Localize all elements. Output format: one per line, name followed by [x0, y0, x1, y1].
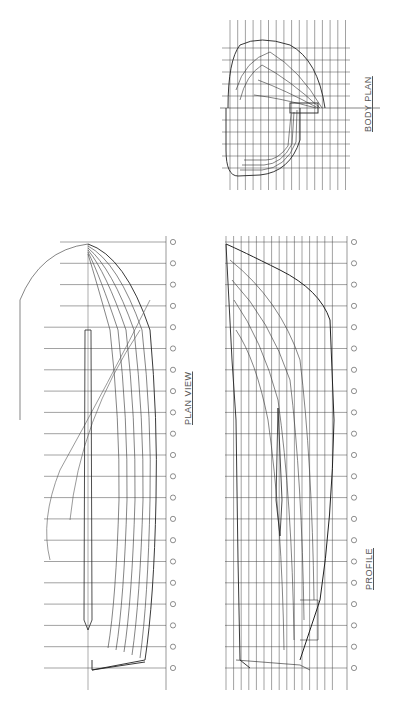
profile-title: PROFILE: [364, 548, 374, 590]
station-marker-profile: [351, 282, 356, 287]
station-marker-profile: [351, 389, 356, 394]
station-marker-profile: [351, 559, 356, 564]
station-marker-profile: [351, 665, 356, 670]
body-plan-view: [220, 20, 380, 190]
station-marker-profile: [351, 623, 356, 628]
plan-view: [20, 236, 176, 690]
station-marker-plan: [170, 452, 175, 457]
station-marker-plan: [170, 410, 175, 415]
station-marker-profile: [351, 602, 356, 607]
profile-view: [225, 236, 357, 690]
station-marker-plan: [170, 474, 175, 479]
station-marker-plan: [170, 239, 175, 244]
lines-plan-drawing: PLAN VIEW PROFILE BODY PLAN: [0, 0, 399, 724]
station-marker-profile: [351, 538, 356, 543]
station-marker-profile: [351, 516, 356, 521]
station-marker-plan: [170, 538, 175, 543]
station-marker-plan: [170, 623, 175, 628]
station-marker-profile: [351, 261, 356, 266]
station-marker-plan: [170, 346, 175, 351]
plan-view-title: PLAN VIEW: [183, 371, 193, 425]
station-marker-profile: [351, 346, 356, 351]
station-marker-profile: [351, 644, 356, 649]
station-marker-plan: [170, 644, 175, 649]
lines-plan-svg: [0, 0, 399, 724]
station-marker-plan: [170, 325, 175, 330]
station-marker-plan: [170, 367, 175, 372]
station-marker-profile: [351, 474, 356, 479]
station-marker-plan: [170, 559, 175, 564]
station-marker-plan: [170, 282, 175, 287]
station-marker-profile: [351, 580, 356, 585]
station-marker-plan: [170, 495, 175, 500]
station-marker-profile: [351, 452, 356, 457]
station-marker-plan: [170, 431, 175, 436]
station-marker-plan: [170, 389, 175, 394]
station-marker-plan: [170, 303, 175, 308]
station-marker-profile: [351, 303, 356, 308]
station-marker-plan: [170, 516, 175, 521]
station-marker-profile: [351, 410, 356, 415]
station-marker-profile: [351, 325, 356, 330]
station-marker-plan: [170, 665, 175, 670]
station-marker-profile: [351, 367, 356, 372]
body-plan-title: BODY PLAN: [363, 76, 373, 132]
station-marker-plan: [170, 261, 175, 266]
station-marker-profile: [351, 431, 356, 436]
station-marker-profile: [351, 239, 356, 244]
station-marker-plan: [170, 580, 175, 585]
station-marker-plan: [170, 602, 175, 607]
station-marker-profile: [351, 495, 356, 500]
